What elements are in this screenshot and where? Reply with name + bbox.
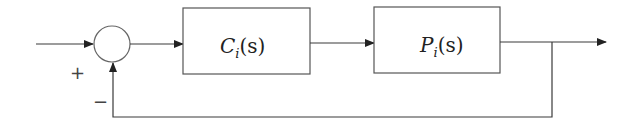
controller-block: Ci(s) (183, 8, 310, 74)
plant-label: Pi(s) (419, 33, 464, 60)
plus-sign: + (70, 62, 85, 83)
plant-block: Pi(s) (374, 7, 500, 73)
controller-label: Ci(s) (220, 34, 265, 61)
summing-junction (94, 26, 130, 62)
minus-sign: − (93, 91, 108, 112)
block-diagram: Ci(s) Pi(s) + − (0, 0, 634, 128)
